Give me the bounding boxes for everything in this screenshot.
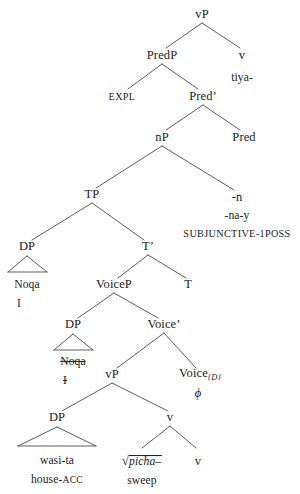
node-voice-head: Voice{D} bbox=[179, 367, 221, 382]
node-voicep: VoiceP bbox=[96, 278, 132, 291]
node-v-terminal: v bbox=[195, 455, 201, 468]
node-dp-object: DP bbox=[49, 411, 65, 424]
node-voice-bar: Voice’ bbox=[148, 318, 181, 331]
node-expl: EXPL bbox=[109, 92, 136, 103]
syntax-tree-diagram: vP PredP v tiya- EXPL Pred’ nP Pred TP -… bbox=[0, 0, 300, 494]
edge-predp-predbar bbox=[162, 64, 198, 89]
node-voice-head-form: ϕ bbox=[195, 387, 202, 400]
edge-np-predaffix bbox=[162, 146, 234, 190]
node-dp-subject: DP bbox=[19, 240, 35, 253]
edge-tbar-t bbox=[148, 255, 186, 278]
edge-predbar-pred bbox=[203, 105, 240, 130]
edge-tp-dpsubject bbox=[32, 203, 92, 240]
triangle-dpsubject-right bbox=[27, 256, 47, 272]
root-stem: picha– bbox=[129, 455, 162, 468]
triangle-dpobject-left bbox=[18, 427, 57, 446]
edge-tp-tbar bbox=[92, 203, 144, 240]
node-dp-trace-form: Noqa bbox=[60, 356, 86, 368]
node-vp-low: vP bbox=[105, 368, 118, 381]
node-vp-top: vP bbox=[195, 8, 208, 21]
edge-vlow-root bbox=[142, 426, 170, 448]
edge-vptop-vtop bbox=[202, 23, 240, 48]
triangle-dptrace-left bbox=[54, 334, 73, 350]
triangle-dptrace-right bbox=[73, 334, 93, 350]
edge-vlow-vterminal bbox=[170, 426, 196, 448]
edge-predp-expl bbox=[128, 64, 162, 89]
node-v-top-form: tiya- bbox=[231, 72, 253, 84]
node-v-low: v bbox=[167, 411, 173, 424]
node-pred-affix-1: -n bbox=[232, 191, 243, 204]
edge-vplow-vlow bbox=[112, 383, 168, 411]
node-tp: TP bbox=[85, 188, 100, 201]
node-t: T bbox=[184, 278, 192, 291]
node-pred-bar: Pred’ bbox=[189, 90, 217, 103]
gloss-stem: house- bbox=[31, 473, 63, 486]
edge-voicep-dptrace bbox=[78, 293, 114, 318]
edge-np-tp bbox=[96, 146, 162, 188]
node-predp: PredP bbox=[147, 49, 177, 62]
node-root-form: √picha– bbox=[122, 454, 162, 468]
edge-tbar-voicep bbox=[118, 255, 148, 278]
node-voice-head-subscript: {D} bbox=[208, 373, 221, 382]
edge-vplow-dpobject bbox=[62, 383, 112, 411]
gloss-case-acc: ACC bbox=[62, 474, 83, 485]
node-voice-head-label: Voice bbox=[179, 366, 208, 380]
node-np: nP bbox=[155, 131, 168, 144]
node-dp-trace-gloss: I bbox=[63, 375, 67, 387]
node-v-top: v bbox=[239, 49, 245, 62]
node-t-bar: T’ bbox=[142, 240, 154, 253]
node-dp-object-form: wasi-ta bbox=[40, 455, 74, 467]
edge-voicep-voicebar bbox=[114, 293, 158, 318]
edge-voicebar-vplow bbox=[117, 333, 164, 368]
node-pred-affix-2: -na-y bbox=[225, 210, 250, 222]
triangle-dpobject-right bbox=[57, 427, 96, 446]
node-root-gloss: sweep bbox=[127, 475, 156, 487]
phi-glyph: ϕ bbox=[195, 386, 202, 400]
node-dp-object-gloss: house-ACC bbox=[31, 474, 83, 486]
node-pred: Pred bbox=[232, 131, 255, 144]
triangle-dpsubject-left bbox=[8, 256, 27, 272]
edge-voicebar-voicehead bbox=[164, 333, 196, 368]
edge-vptop-predp bbox=[166, 23, 202, 48]
node-pred-gloss: SUBJUNCTIVE-1POSS bbox=[183, 229, 290, 240]
node-dp-trace: DP bbox=[65, 318, 81, 331]
node-dp-subject-gloss: I bbox=[17, 298, 21, 310]
node-dp-subject-form: Noqa bbox=[14, 279, 40, 291]
edge-predbar-np bbox=[166, 105, 203, 130]
